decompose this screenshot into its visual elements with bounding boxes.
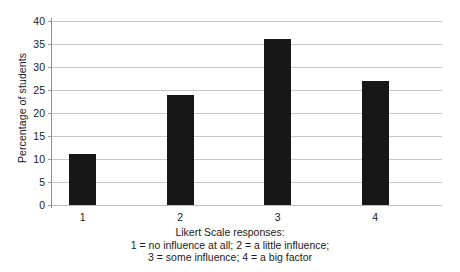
gridline: [52, 21, 442, 22]
y-axis-tick-mark: [48, 21, 52, 22]
x-axis-tick-label: 4: [372, 211, 378, 223]
y-axis-tick-mark: [48, 136, 52, 137]
x-axis-tick-label: 3: [275, 211, 281, 223]
caption-line: 1 = no influence at all; 2 = a little in…: [0, 239, 460, 252]
x-axis-tick-label: 2: [177, 211, 183, 223]
bar: [69, 154, 96, 205]
gridline: [52, 205, 442, 206]
y-axis-tick-label: 5: [39, 176, 45, 188]
y-axis-tick-label: 25: [33, 84, 45, 96]
y-axis-tick-mark: [48, 205, 52, 206]
y-axis-tick-mark: [48, 113, 52, 114]
x-axis-tick-label: 1: [80, 211, 86, 223]
y-axis-tick-label: 15: [33, 130, 45, 142]
y-axis-tick-label: 35: [33, 38, 45, 50]
plot-area: 0510152025303540 1234: [52, 21, 442, 205]
bar-chart-figure: Percentage of students 0510152025303540 …: [0, 0, 460, 272]
gridline: [52, 67, 442, 68]
y-axis-tick-label: 0: [39, 199, 45, 211]
bar: [362, 81, 389, 205]
y-axis-tick-label: 20: [33, 107, 45, 119]
y-axis-tick-label: 10: [33, 153, 45, 165]
y-axis-tick-mark: [48, 67, 52, 68]
bar: [264, 39, 291, 205]
y-axis-tick-label: 40: [33, 15, 45, 27]
y-axis-title: Percentage of students: [10, 0, 34, 215]
y-axis-tick-mark: [48, 182, 52, 183]
y-axis-tick-mark: [48, 159, 52, 160]
y-axis-title-label: Percentage of students: [16, 52, 28, 162]
caption-line: Likert Scale responses:: [0, 226, 460, 239]
bar: [167, 95, 194, 205]
caption-line: 3 = some influence; 4 = a big factor: [0, 251, 460, 264]
chart-caption: Likert Scale responses:1 = no influence …: [0, 226, 460, 264]
y-axis-tick-mark: [48, 90, 52, 91]
gridline: [52, 44, 442, 45]
y-axis-tick-label: 30: [33, 61, 45, 73]
y-axis-tick-mark: [48, 44, 52, 45]
